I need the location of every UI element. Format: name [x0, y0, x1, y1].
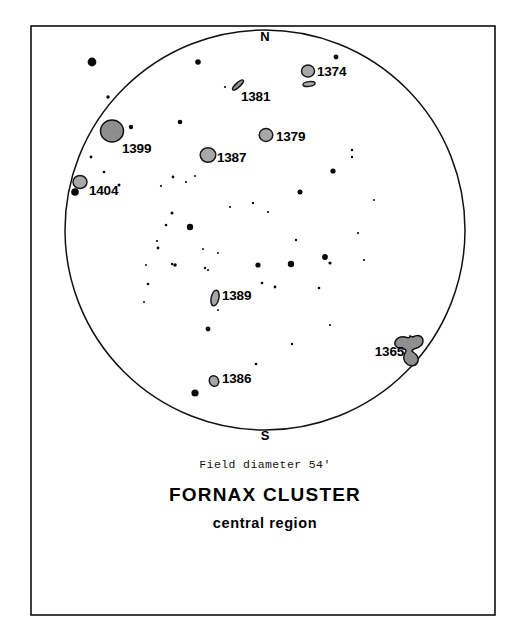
field-star — [71, 188, 79, 196]
galaxy-label-ngc-1365: 1365 — [375, 344, 405, 359]
field-star — [255, 363, 258, 366]
field-star — [252, 202, 254, 204]
field-star — [206, 327, 211, 332]
field-star — [295, 239, 297, 241]
field-star — [191, 389, 198, 396]
field-star — [207, 269, 209, 271]
field-star — [330, 168, 335, 173]
field-star — [145, 264, 147, 266]
galaxy-texture-speckle — [106, 126, 109, 129]
field-star — [274, 286, 277, 289]
field-star — [147, 283, 150, 286]
galaxy-ngc-1379 — [259, 129, 273, 142]
field-star — [194, 175, 196, 177]
galaxy-texture-speckle — [105, 132, 107, 134]
field-star — [165, 224, 168, 227]
north-marker: N — [260, 29, 269, 44]
field-star — [291, 343, 293, 345]
galaxy-texture-speckle — [116, 131, 119, 134]
field-star — [224, 86, 226, 88]
galaxy-label-ngc-1389: 1389 — [222, 288, 251, 303]
field-star — [185, 181, 187, 183]
fornax-cluster-chart: N S 137413811379139913871404138913861365… — [0, 0, 523, 639]
field-star — [363, 259, 365, 261]
field-star — [171, 263, 173, 265]
galaxy-label-ngc-1399: 1399 — [122, 141, 151, 156]
chart-canvas: N S 137413811379139913871404138913861365… — [0, 0, 523, 639]
galaxy-labels-layer: 137413811379139913871404138913861365 — [89, 64, 405, 386]
galaxy-ngc-1374 — [302, 65, 315, 77]
galaxy-ngc-1389 — [210, 289, 221, 306]
field-star — [357, 232, 359, 234]
field-star — [195, 59, 201, 65]
field-star — [202, 248, 204, 250]
field-star — [160, 185, 162, 187]
field-star — [143, 301, 145, 303]
galaxy-label-ngc-1386: 1386 — [222, 371, 252, 386]
field-star — [90, 156, 93, 159]
field-star — [329, 324, 331, 326]
field-star — [171, 212, 174, 215]
field-star — [322, 254, 328, 260]
galaxy-ngc-1386 — [208, 374, 221, 388]
field-star — [106, 95, 109, 98]
field-star — [318, 287, 321, 290]
field-star — [157, 247, 160, 250]
galaxy-ngc-1387 — [200, 148, 216, 162]
galaxy-label-ngc-1404: 1404 — [89, 183, 119, 198]
field-star — [172, 176, 175, 179]
galaxy-label-ngc-1381: 1381 — [241, 89, 271, 104]
galaxies-layer — [73, 65, 423, 388]
galaxy-ngc-1404 — [73, 176, 87, 189]
field-star — [267, 211, 269, 213]
galaxy-texture-speckle — [112, 130, 114, 132]
galaxy-label-ngc-1374: 1374 — [317, 64, 347, 79]
field-star — [103, 171, 106, 174]
field-star — [173, 263, 177, 267]
field-star — [334, 55, 339, 60]
galaxy-ngc-1375 — [303, 81, 316, 87]
galaxy-label-ngc-1387: 1387 — [217, 150, 246, 165]
field-star — [328, 261, 331, 264]
field-star — [261, 282, 264, 285]
field-star — [178, 120, 183, 125]
galaxy-texture-speckle — [108, 123, 110, 125]
field-star — [298, 190, 303, 195]
field-stars-layer — [71, 55, 375, 397]
south-marker: S — [261, 428, 270, 443]
field-star — [351, 156, 353, 158]
field-star — [217, 252, 219, 254]
field-star — [351, 149, 353, 151]
field-star — [187, 224, 193, 230]
galaxy-texture-speckle — [113, 125, 116, 128]
field-star — [88, 58, 97, 67]
field-star — [373, 199, 375, 201]
galaxy-texture-speckle — [109, 134, 112, 137]
galaxy-label-ngc-1379: 1379 — [276, 129, 305, 144]
field-star — [255, 262, 260, 267]
field-star — [129, 125, 133, 129]
chart-subtitle: central region — [213, 515, 317, 531]
field-star — [204, 267, 206, 269]
field-star — [156, 240, 158, 242]
field-star — [229, 206, 231, 208]
field-diameter-note: Field diameter 54' — [199, 458, 330, 471]
field-star — [217, 309, 219, 311]
field-star — [288, 261, 294, 267]
galaxy-texture-speckle — [115, 136, 117, 138]
chart-title: FORNAX CLUSTER — [169, 484, 361, 505]
